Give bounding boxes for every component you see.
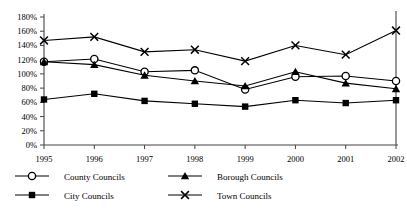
marker-filled-square — [192, 101, 198, 107]
marker-filled-square — [343, 100, 349, 106]
x-tick-label: 1996 — [86, 154, 103, 164]
legend-item-borough-councils[interactable]: Borough Councils — [168, 172, 283, 182]
x-tick-label: 1997 — [136, 154, 153, 164]
legend-label: Borough Councils — [217, 172, 283, 182]
line-chart: 0%20%40%60%80%100%120%140%160%180% 19951… — [0, 0, 407, 210]
legend-label: Town Councils — [217, 191, 272, 201]
y-axis-tick-labels: 0%20%40%60%80%100%120%140%160%180% — [17, 12, 37, 150]
marker-filled-square — [141, 98, 147, 104]
x-axis-tick-labels: 19951996199719981999200020012002 — [36, 154, 405, 164]
x-tick-label: 2001 — [337, 154, 354, 164]
y-tick-label: 140% — [17, 40, 37, 50]
marker-open-circle — [191, 67, 198, 74]
chart-canvas: 0%20%40%60%80%100%120%140%160%180% 19951… — [0, 0, 407, 210]
y-tick-label: 20% — [21, 126, 37, 136]
marker-filled-square — [91, 91, 97, 97]
y-tick-label: 100% — [17, 69, 37, 79]
y-tick-label: 120% — [17, 55, 37, 65]
legend-item-county-councils[interactable]: County Councils — [15, 172, 125, 182]
series-city-councils — [41, 91, 399, 110]
marker-cross-x — [241, 57, 249, 65]
legend-item-town-councils[interactable]: Town Councils — [168, 191, 272, 201]
marker-filled-square — [242, 103, 248, 109]
y-tick-label: 0% — [26, 140, 37, 150]
chart-legend: County CouncilsBorough CouncilsCity Coun… — [15, 172, 283, 201]
legend-label: County Councils — [64, 172, 125, 182]
marker-filled-square — [292, 97, 298, 103]
x-tick-label: 1995 — [36, 154, 53, 164]
legend-item-city-councils[interactable]: City Councils — [15, 191, 114, 201]
marker-filled-square — [29, 192, 35, 198]
legend-label: City Councils — [64, 191, 114, 201]
marker-filled-square — [41, 96, 47, 102]
y-tick-label: 180% — [17, 12, 37, 22]
x-axis-tick-marks — [44, 145, 396, 149]
marker-filled-triangle — [291, 68, 299, 75]
y-tick-label: 80% — [21, 83, 37, 93]
x-tick-label: 1998 — [186, 154, 203, 164]
x-tick-label: 2000 — [287, 154, 304, 164]
x-tick-label: 1999 — [237, 154, 254, 164]
marker-filled-square — [393, 97, 399, 103]
marker-open-circle — [342, 72, 349, 79]
y-tick-label: 60% — [21, 97, 37, 107]
series-layer — [40, 27, 400, 110]
y-tick-label: 160% — [17, 26, 37, 36]
marker-open-circle — [28, 172, 35, 179]
y-tick-label: 40% — [21, 112, 37, 122]
x-tick-label: 2002 — [388, 154, 405, 164]
marker-open-circle — [392, 77, 399, 84]
